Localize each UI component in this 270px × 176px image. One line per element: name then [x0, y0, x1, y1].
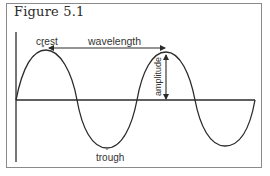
trough-label: trough	[96, 152, 124, 163]
crest-label: crest	[36, 36, 58, 47]
wavelength-label: wavelength	[87, 35, 141, 47]
wave-diagram: crest wavelength trough amplitude	[0, 0, 270, 176]
amplitude-label: amplitude	[153, 57, 163, 96]
wave-curve	[16, 50, 255, 148]
trough-marker	[106, 148, 108, 150]
